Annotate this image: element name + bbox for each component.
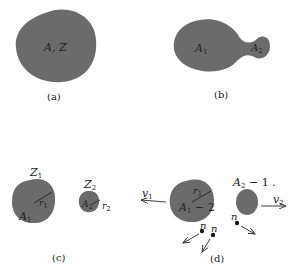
fragment-1-charge-label: Z1 — [30, 167, 42, 180]
neutron-arrow — [202, 239, 210, 252]
velocity-v2-label: v2 — [273, 194, 284, 207]
fragment-1-radius-label-d: r1 — [193, 186, 202, 198]
nucleus-a-label: A, Z — [44, 42, 67, 53]
caption-c: (c) — [52, 253, 65, 263]
neutron-label: n — [200, 221, 206, 231]
neutron-label: n — [211, 224, 217, 234]
caption-a: (a) — [47, 92, 61, 102]
fragment-2-mass-label: A2 — [82, 200, 93, 211]
neutron-arrow — [183, 234, 199, 243]
lobe-2-label: A2 — [251, 43, 263, 55]
lobe-1-label: A1 — [195, 43, 207, 56]
fission-diagram: A, Z (a) A1 A2 (b) Z1 A1 r1 Z2 A2 r2 (c)… — [0, 0, 297, 267]
caption-b: (b) — [214, 90, 228, 100]
neutron-arrow — [241, 226, 255, 234]
fragment-1-mass-label: A1 — [19, 211, 31, 224]
fragment-2-charge-label: Z2 — [84, 179, 96, 192]
fragment-1-radius-label: r1 — [39, 199, 48, 210]
velocity-v1-label: v1 — [142, 188, 153, 201]
neutron-label: n — [231, 212, 237, 222]
fragment-1-mass-label-d: A1 − 2 — [179, 202, 215, 215]
caption-d: (d) — [210, 254, 224, 264]
fragment-2-d — [236, 189, 258, 215]
fragment-2-radius-label: r2 — [102, 202, 111, 213]
fragment-2-mass-label-d: A2 − 1 . — [233, 177, 276, 190]
